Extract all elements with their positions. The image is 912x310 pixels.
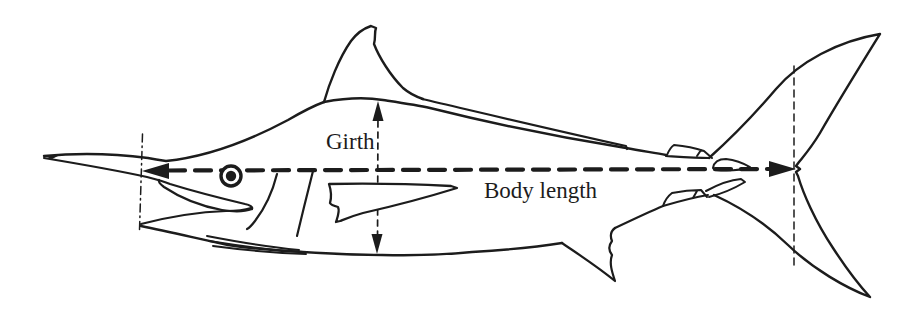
girth-label: Girth [326, 129, 375, 154]
girth-arrowhead-up [373, 101, 384, 121]
body-length-arrowhead-right [769, 161, 796, 177]
body-length-dashed-line [169, 169, 770, 171]
caudal-peduncle-bottom [663, 195, 708, 206]
girth-dashed-line [378, 110, 379, 246]
pectoral-fin [329, 184, 457, 222]
dorsal-fin [324, 26, 423, 102]
opercle-curve [297, 171, 313, 236]
back-outline [324, 98, 666, 155]
pelvic-fin-strips [207, 236, 306, 254]
caudal-peduncle-top [666, 156, 709, 158]
girth-arrowhead-down [372, 234, 383, 254]
marlin-measurement-diagram: Girth Body length [0, 0, 912, 310]
lower-tail-keel [706, 179, 745, 197]
girth-arrow [372, 101, 384, 254]
body-length-label: Body length [484, 178, 598, 203]
eye [221, 166, 241, 186]
left-reference-line [140, 134, 143, 230]
preopercle-curve [247, 174, 277, 229]
fish-illustration [44, 26, 880, 297]
figure-canvas: Girth Body length [0, 0, 912, 310]
anal-fin [562, 228, 615, 281]
belly-outline [141, 226, 562, 255]
folded-dorsal-fin-edge [422, 99, 627, 149]
bill-and-forehead-outline [44, 102, 324, 161]
ventral-outline [615, 206, 663, 228]
bill-underside [44, 158, 252, 209]
